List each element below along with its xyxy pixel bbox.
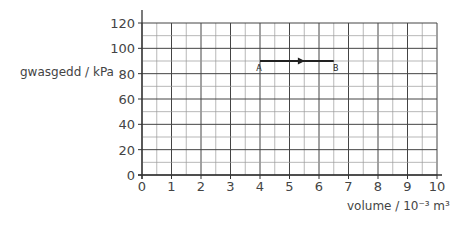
x-tick-label: 6 [315, 179, 323, 194]
point-label-a: A [256, 64, 262, 73]
pressure-volume-chart: 012345678910 020406080100120 AB gwasgedd… [0, 0, 466, 227]
y-tick-label: 60 [118, 92, 135, 107]
x-tick-label: 0 [138, 179, 146, 194]
x-tick-label: 7 [344, 179, 352, 194]
y-tick-label: 20 [118, 143, 135, 158]
y-tick-label: 80 [118, 67, 135, 82]
grid [142, 23, 437, 175]
x-axis-title: volume / 10⁻³ m³ [347, 199, 450, 213]
y-tick-label: 120 [110, 16, 135, 31]
x-tick-label: 1 [167, 179, 175, 194]
point-label-b: B [333, 64, 339, 73]
x-tick-label: 2 [197, 179, 205, 194]
x-tick-label: 10 [429, 179, 446, 194]
x-tick-label: 8 [374, 179, 382, 194]
x-tick-label: 4 [256, 179, 264, 194]
y-tick-label: 100 [110, 41, 135, 56]
y-tick-label: 0 [127, 168, 135, 183]
y-tick-label: 40 [118, 117, 135, 132]
x-tick-label: 9 [403, 179, 411, 194]
y-tick-labels: 020406080100120 [110, 16, 142, 183]
data-series: AB [256, 58, 338, 74]
arrow-head-icon [298, 58, 305, 65]
x-tick-label: 5 [285, 179, 293, 194]
x-tick-label: 3 [226, 179, 234, 194]
y-axis-title: gwasgedd / kPa [20, 65, 114, 79]
x-tick-labels: 012345678910 [138, 175, 445, 194]
